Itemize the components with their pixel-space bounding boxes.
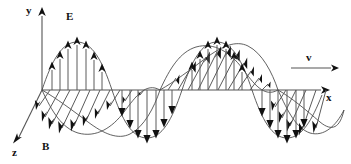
y-axis-label: y	[26, 4, 32, 16]
velocity-arrowhead	[331, 64, 339, 71]
e-field-label: E	[66, 10, 73, 22]
z-axis-label: z	[12, 146, 17, 158]
velocity-label: v	[306, 51, 312, 63]
b-field-label: B	[42, 140, 50, 152]
z-axis-line	[18, 90, 42, 139]
b-field-group: B	[35, 44, 344, 152]
x-axis-label: x	[326, 91, 332, 103]
b-vector-set-2	[168, 45, 271, 90]
y-axis-arrowhead	[38, 7, 46, 16]
e-vector-set-1-up	[48, 37, 105, 91]
e-vector-set-3-up	[188, 37, 245, 91]
em-wave-figure: x y z	[0, 0, 351, 164]
b-vector-set-1	[35, 90, 144, 134]
velocity-annotation: v	[291, 51, 339, 72]
figure-canvas: x y z	[0, 0, 351, 164]
b-vector-set-3	[271, 90, 326, 136]
